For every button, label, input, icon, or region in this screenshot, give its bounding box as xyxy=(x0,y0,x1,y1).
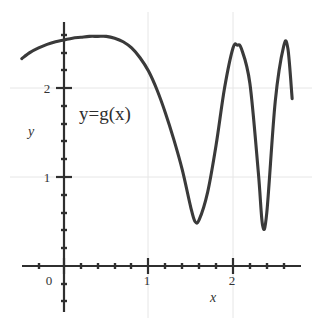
y-axis-label: y xyxy=(26,124,35,139)
x-tick-label-2: 2 xyxy=(229,273,236,288)
y-tick-label-2: 2 xyxy=(44,81,51,96)
curve-annotation-label: y=g(x) xyxy=(79,103,131,125)
y-tick-label-1: 1 xyxy=(44,170,51,185)
x-tick-label-1: 1 xyxy=(144,273,151,288)
function-graph: 0 1 2 1 2 x y y=g(x) xyxy=(0,0,315,325)
x-tick-label-0: 0 xyxy=(46,273,53,288)
function-curve-g xyxy=(22,36,292,229)
figure-canvas: 0 1 2 1 2 x y y=g(x) xyxy=(0,0,315,325)
gridlines xyxy=(10,12,312,318)
x-axis-label: x xyxy=(209,290,217,305)
